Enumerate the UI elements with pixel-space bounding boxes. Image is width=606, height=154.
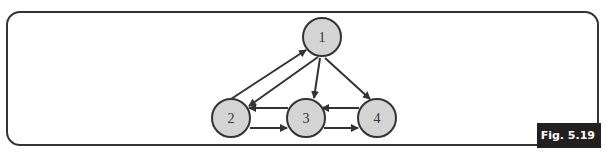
node-2-label: 2 <box>228 111 235 126</box>
node-1: 1 <box>303 18 341 56</box>
node-4: 4 <box>358 99 396 137</box>
edge-1-to-4 <box>325 58 370 99</box>
node-1-label: 1 <box>319 30 326 45</box>
node-2: 2 <box>212 99 250 137</box>
node-3: 3 <box>287 99 325 137</box>
node-4-label: 4 <box>374 111 381 126</box>
directed-graph: 1 2 3 4 <box>0 0 606 154</box>
nodes: 1 2 3 4 <box>212 18 396 137</box>
node-3-label: 3 <box>303 111 310 126</box>
edge-1-to-3 <box>314 58 320 98</box>
figure-caption-label: Fig. 5.19 <box>537 123 601 148</box>
